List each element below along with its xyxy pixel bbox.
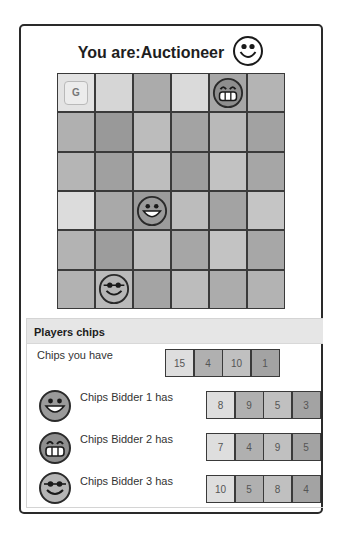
bidder-2-chip-3: 9 xyxy=(264,434,291,460)
bidder-1-chip-1: 8 xyxy=(207,392,234,418)
game-panel: You are:Auctioneer G Players chips Chips… xyxy=(19,24,323,514)
goal-tile: G xyxy=(64,81,88,105)
board-cell-r3-c3[interactable] xyxy=(172,192,208,229)
your-chips-label: Chips you have xyxy=(37,349,113,361)
bidder-1-chip-2: 9 xyxy=(236,392,263,418)
board-cell-r0-c0[interactable]: G xyxy=(58,74,94,111)
bidder-3-chips-strip: 10584 xyxy=(206,475,321,503)
your-chips-strip: 154101 xyxy=(165,349,280,377)
board-cell-r5-c4[interactable] xyxy=(210,271,246,308)
bidder-1-chip-3: 5 xyxy=(264,392,291,418)
bidder-3-label: Chips Bidder 3 has xyxy=(80,475,173,487)
role-title: You are:Auctioneer xyxy=(78,44,224,62)
bidder-2-chips-strip: 7495 xyxy=(206,433,321,461)
bidder-1-chip-4: 3 xyxy=(293,392,320,418)
board-cell-r5-c1[interactable] xyxy=(96,271,132,308)
board-cell-r5-c5[interactable] xyxy=(248,271,284,308)
board-cell-r2-c5[interactable] xyxy=(248,153,284,190)
board-cell-r3-c4[interactable] xyxy=(210,192,246,229)
board-cell-r1-c1[interactable] xyxy=(96,113,132,150)
players-chips-panel: Players chips Chips you have 154101 Chip… xyxy=(26,318,323,508)
cool-smile-face-icon xyxy=(38,471,72,505)
bidder-3-row: Chips Bidder 3 has 10584 xyxy=(27,469,323,508)
board-cell-r1-c0[interactable] xyxy=(58,113,94,150)
smiley-face-icon xyxy=(232,35,264,71)
bidder-3-chip-3: 8 xyxy=(264,476,291,502)
board-cell-r5-c0[interactable] xyxy=(58,271,94,308)
bidder-2-chip-4: 5 xyxy=(293,434,320,460)
your-chip-4: 1 xyxy=(252,350,279,376)
your-chip-1: 15 xyxy=(166,350,193,376)
board-cell-r3-c1[interactable] xyxy=(96,192,132,229)
grinning-face-icon xyxy=(38,431,72,465)
board-cell-r0-c4[interactable] xyxy=(210,74,246,111)
grinning-face-icon xyxy=(212,77,244,109)
header: You are:Auctioneer xyxy=(21,36,321,70)
board-cell-r3-c5[interactable] xyxy=(248,192,284,229)
bidder-3-chip-4: 4 xyxy=(293,476,320,502)
board-cell-r4-c5[interactable] xyxy=(248,231,284,268)
board-cell-r2-c0[interactable] xyxy=(58,153,94,190)
your-chips-row: Chips you have 154101 xyxy=(27,343,323,379)
bidder-1-chips-strip: 8953 xyxy=(206,391,321,419)
board-cell-r0-c2[interactable] xyxy=(134,74,170,111)
board-cell-r0-c5[interactable] xyxy=(248,74,284,111)
bidder-3-chip-2: 5 xyxy=(236,476,263,502)
bidder-3-chip-1: 10 xyxy=(207,476,234,502)
board-cell-r4-c2[interactable] xyxy=(134,231,170,268)
your-chip-2: 4 xyxy=(195,350,222,376)
board-cell-r4-c1[interactable] xyxy=(96,231,132,268)
board-cell-r4-c3[interactable] xyxy=(172,231,208,268)
board-cell-r2-c1[interactable] xyxy=(96,153,132,190)
board-cell-r4-c4[interactable] xyxy=(210,231,246,268)
board-cell-r3-c2[interactable] xyxy=(134,192,170,229)
game-board: G xyxy=(57,73,285,309)
board-cell-r1-c4[interactable] xyxy=(210,113,246,150)
board-cell-r1-c2[interactable] xyxy=(134,113,170,150)
board-cell-r3-c0[interactable] xyxy=(58,192,94,229)
bidder-2-chip-2: 4 xyxy=(236,434,263,460)
players-chips-title: Players chips xyxy=(27,319,323,344)
big-smile-face-icon xyxy=(136,195,168,227)
bidder-1-row: Chips Bidder 1 has 8953 xyxy=(27,385,323,427)
board-cell-r2-c2[interactable] xyxy=(134,153,170,190)
big-smile-face-icon xyxy=(38,389,72,423)
cool-smile-face-icon xyxy=(98,273,130,305)
bidder-1-label: Chips Bidder 1 has xyxy=(80,391,173,403)
board-cell-r2-c3[interactable] xyxy=(172,153,208,190)
your-chip-3: 10 xyxy=(223,350,250,376)
board-cell-r5-c2[interactable] xyxy=(134,271,170,308)
board-cell-r0-c3[interactable] xyxy=(172,74,208,111)
bidder-2-label: Chips Bidder 2 has xyxy=(80,433,173,445)
bidder-2-row: Chips Bidder 2 has 7495 xyxy=(27,427,323,469)
board-cell-r5-c3[interactable] xyxy=(172,271,208,308)
board-cell-r4-c0[interactable] xyxy=(58,231,94,268)
board-cell-r0-c1[interactable] xyxy=(96,74,132,111)
bidder-2-chip-1: 7 xyxy=(207,434,234,460)
board-cell-r1-c3[interactable] xyxy=(172,113,208,150)
board-cell-r2-c4[interactable] xyxy=(210,153,246,190)
board-cell-r1-c5[interactable] xyxy=(248,113,284,150)
